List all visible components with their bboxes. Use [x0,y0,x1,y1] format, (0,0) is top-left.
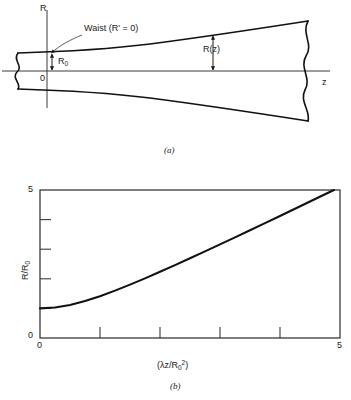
x-axis-title: (λz/R02) [157,360,188,371]
x-tick-label-min: 0 [37,341,42,350]
x-axis-ticks [100,327,280,338]
y-tick-label-max: 5 [28,185,33,194]
panel-b-graphics [0,0,351,400]
beam-expansion-curve [40,190,334,308]
plot-frame [40,190,340,338]
y-axis-title: R/R0 [20,261,31,280]
x-axis-title-close: ) [185,360,188,370]
figure-root: R z 0 Waist (R' = 0) R0 R(z) (a) 5 0 0 5 [0,0,351,400]
x-axis-title-mid: z/R [165,360,179,370]
y-tick-label-min: 0 [28,331,33,340]
panel-b-caption: (b) [170,381,181,391]
y-axis-title-sub: 0 [24,261,31,265]
y-axis-ticks [40,220,51,309]
y-axis-title-main: R/R [20,265,30,281]
x-tick-label-max: 5 [337,341,342,350]
